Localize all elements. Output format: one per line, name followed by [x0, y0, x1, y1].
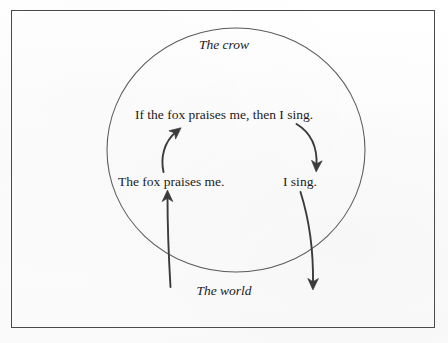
label-consequent-proposition: I sing.	[283, 175, 317, 189]
crow-domain-circle	[107, 28, 365, 272]
label-conditional-proposition: If the fox praises me, then I sing.	[0, 108, 448, 122]
label-antecedent-proposition: The fox praises me.	[118, 175, 224, 189]
arrow-conditional-to-consequent	[297, 124, 317, 166]
arrow-consequent-to-world	[301, 192, 314, 284]
label-the-crow: The crow	[0, 38, 448, 52]
figure-container: The crow If the fox praises me, then I s…	[0, 0, 448, 343]
label-the-world: The world	[0, 284, 448, 298]
arrow-antecedent-to-conditional	[162, 132, 176, 173]
arrow-world-to-antecedent	[168, 196, 171, 287]
